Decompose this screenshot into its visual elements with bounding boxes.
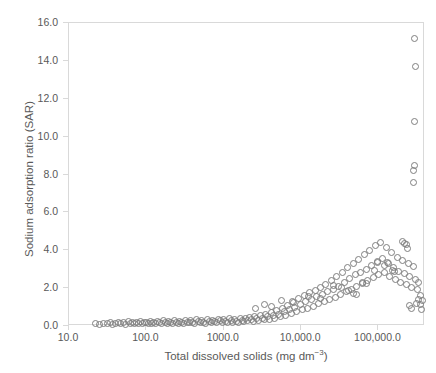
scatter-point	[412, 63, 419, 70]
plot-area	[68, 22, 424, 325]
scatter-point	[371, 267, 378, 274]
scatter-point	[385, 260, 392, 267]
x-tick-label: 100.0	[132, 331, 158, 343]
x-tick-label: 10.0	[58, 331, 78, 343]
scatter-point	[415, 279, 422, 286]
scatter-point	[410, 263, 417, 270]
x-tick-mark	[68, 325, 69, 330]
scatter-point	[353, 291, 360, 298]
scatter-point	[330, 282, 337, 289]
scatter-point	[410, 167, 417, 174]
scatter-points-layer	[69, 23, 423, 324]
scatter-point	[391, 268, 398, 275]
x-tick-mark	[300, 325, 301, 330]
scatter-point	[411, 35, 418, 42]
x-tick-label: 1000.0	[207, 331, 239, 343]
scatter-point	[411, 118, 418, 125]
chart-figure: Sodium adsorption ratio (SAR) 0.02.04.06…	[0, 0, 436, 373]
scatter-point	[252, 305, 259, 312]
scatter-point	[345, 287, 352, 294]
x-tick-label: 100,000.0	[354, 331, 401, 343]
scatter-point	[404, 245, 411, 252]
scatter-point	[261, 301, 268, 308]
scatter-point	[418, 306, 425, 313]
scatter-point	[363, 280, 370, 287]
x-tick-mark	[377, 325, 378, 330]
scatter-point	[278, 297, 285, 304]
scatter-point	[355, 256, 362, 263]
scatter-point	[338, 284, 345, 291]
x-tick-label: 10,000.0	[280, 331, 321, 343]
x-axis-label: Total dissolved solids (mg dm−3)	[68, 348, 424, 362]
scatter-point	[410, 179, 417, 186]
